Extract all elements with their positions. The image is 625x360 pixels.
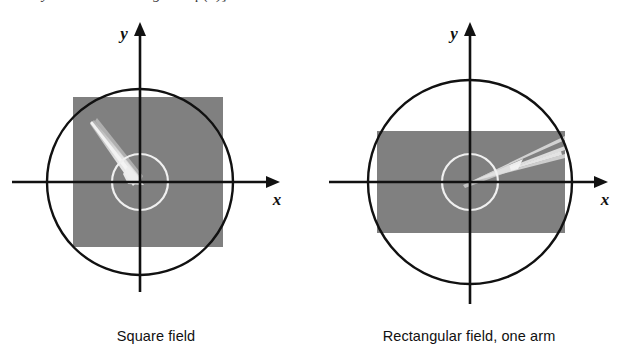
- x-axis-arrowhead: [594, 176, 608, 188]
- square-field-diagram: y x: [0, 14, 312, 324]
- caption-rectangular-field: Rectangular field, one arm: [313, 328, 625, 344]
- figure-page: y = -0.5 according to Eq.(5)]: [0, 0, 625, 360]
- cut-off-text: y = -0.5 according to Eq.(5)]: [42, 0, 229, 3]
- x-axis-label: x: [272, 190, 282, 209]
- panel-rectangular-field: y x: [313, 14, 625, 324]
- caption-square-field: Square field: [0, 328, 312, 344]
- y-axis-label: y: [448, 24, 458, 43]
- panel-square-field: y x: [0, 14, 312, 324]
- y-axis-arrowhead: [134, 22, 146, 36]
- rectangular-field-diagram: y x: [313, 14, 625, 324]
- y-axis-label: y: [118, 24, 128, 43]
- x-axis-arrowhead: [266, 176, 280, 188]
- x-axis-label: x: [600, 190, 610, 209]
- y-axis-arrowhead: [464, 22, 476, 36]
- square-field-region: [73, 97, 223, 247]
- figure-area: y x: [0, 14, 625, 324]
